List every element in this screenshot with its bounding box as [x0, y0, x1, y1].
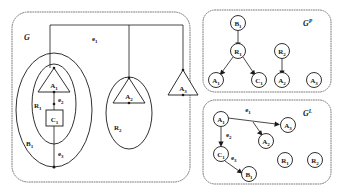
panel-graph-gp: GP B1 R1 R2 — [203, 10, 331, 92]
gl-node-b1: B1 — [242, 167, 257, 182]
gl-node-a2: A2 — [259, 134, 274, 149]
gl-node-r2: R2 — [308, 153, 323, 168]
gp-node-r2: R2 — [275, 44, 290, 59]
edge-label-e3: e3 — [58, 150, 64, 159]
node-a3: A3 — [168, 69, 198, 97]
edge-label-e1: e1 — [92, 35, 98, 44]
gl-node-a1: A1 — [214, 112, 229, 127]
panel-gp-title: GP — [303, 18, 313, 28]
gp-node-a1: A1 — [209, 73, 224, 88]
gl-node-r1: R1 — [278, 153, 293, 168]
gp-node-r1: R1 — [231, 44, 246, 59]
node-a2: A2 — [113, 77, 145, 105]
node-a3-vertex-bottom — [182, 94, 185, 97]
hierarchical-graph-figure: G e1 B1 R1 A1 — [0, 0, 337, 194]
gl-edge-label-e2: e2 — [226, 131, 232, 140]
node-a1-vertex-top — [53, 67, 56, 70]
panel-g-border — [12, 12, 190, 182]
arc-a1-a3 — [228, 118, 276, 124]
arc-c1-b1 — [225, 161, 239, 171]
gp-node-c1: C1 — [252, 73, 267, 88]
edge-e2-joint — [53, 103, 56, 106]
gl-edge-label-e1: e1 — [245, 106, 251, 115]
container-label-r1: R1 — [34, 102, 42, 111]
arrowhead-a1-a3 — [274, 122, 280, 127]
arc-a1-a2 — [253, 122, 260, 132]
hyperedge-e1: e1 — [50, 25, 183, 78]
panel-gl-title: GL — [303, 108, 313, 118]
gp-node-a2: A2 — [275, 73, 290, 88]
arc-r1-c1 — [243, 57, 253, 72]
panel-g-title: G — [24, 33, 30, 42]
panel-graph-gl: GL e1 e2 e3 A1 A3 — [203, 100, 331, 184]
container-label-b1: B1 — [26, 140, 34, 149]
node-c1: C1 — [46, 110, 63, 126]
gl-edge-label-e3: e3 — [231, 154, 237, 163]
edge-label-e2: e2 — [58, 96, 64, 105]
gp-node-a3: A3 — [307, 73, 322, 88]
edge-e3-endpoint — [53, 166, 56, 169]
gp-node-b1: B1 — [231, 16, 246, 31]
container-label-r2: R2 — [114, 124, 122, 133]
node-a3-vertex-top — [182, 69, 185, 72]
panel-graph-g: G e1 B1 R1 A1 — [12, 12, 198, 182]
node-a2-vertex-top — [128, 77, 131, 80]
gl-node-c1: C1 — [214, 147, 229, 162]
arc-r1-a1 — [222, 57, 233, 72]
node-a1: A1 — [38, 67, 70, 94]
gl-node-a3: A3 — [281, 118, 296, 133]
node-a2-vertex-bottom — [128, 102, 131, 105]
